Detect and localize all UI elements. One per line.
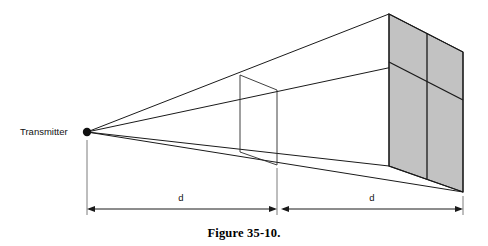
far-panel-surface bbox=[389, 14, 463, 192]
beam-spreading-diagram: Transmitter d d Figure 35-10. bbox=[0, 0, 488, 246]
dimension-far-arrow-right bbox=[455, 206, 463, 212]
ray-bottom-left bbox=[87, 132, 389, 166]
far-panel-group bbox=[389, 14, 463, 192]
figure-container: Transmitter d d Figure 35-10. bbox=[0, 0, 488, 246]
dimension-near-arrow-left bbox=[87, 206, 95, 212]
dimension-far-label: d bbox=[369, 192, 374, 203]
dimension-near-group: d bbox=[87, 192, 277, 212]
ray-top-left bbox=[87, 14, 389, 132]
dimension-far-arrow-left bbox=[281, 206, 289, 212]
mid-plane-bottom-edge bbox=[240, 152, 277, 165]
transmitter-group: Transmitter bbox=[20, 126, 91, 137]
dimension-near-label: d bbox=[178, 192, 183, 203]
dimension-near-arrow-right bbox=[269, 206, 277, 212]
transmitter-dot bbox=[83, 128, 91, 136]
mid-plane-top-edge bbox=[240, 75, 277, 90]
figure-caption: Figure 35-10. bbox=[207, 226, 280, 240]
dimension-far-group: d bbox=[281, 192, 463, 212]
transmitter-label: Transmitter bbox=[20, 126, 68, 137]
